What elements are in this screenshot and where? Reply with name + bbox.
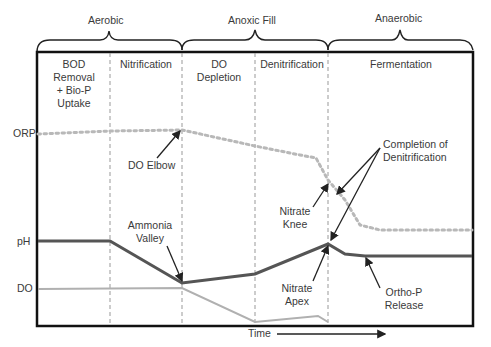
axis-label-orp: ORP	[13, 127, 36, 139]
ph-line	[38, 241, 472, 283]
phase-aerobic: Aerobic	[88, 14, 124, 26]
phase-anaerobic: Anaerobic	[375, 12, 422, 24]
annotation-completion-of-denitrification: Completion of Denitrification	[383, 138, 448, 164]
annotation-arrows	[157, 131, 385, 334]
annotation-ortho-p-release: Ortho-P Release	[382, 286, 426, 312]
annotation-nitrate-apex: Nitrate Apex	[277, 282, 317, 308]
brace-aerobic	[37, 31, 182, 52]
brace-anaerobic	[328, 30, 473, 50]
axis-label-ph: pH	[17, 235, 30, 247]
stage-bod-removal: BOD Removal + Bio-P Uptake	[40, 58, 108, 110]
stage-do-depletion: DO Depletion	[184, 58, 254, 84]
phase-anoxic-fill: Anoxic Fill	[228, 14, 276, 26]
stage-fermentation: Fermentation	[330, 58, 472, 71]
annotation-nitrate-knee: Nitrate Knee	[275, 205, 315, 231]
annotation-ammonia-valley: Ammonia Valley	[124, 219, 176, 245]
stage-nitrification: Nitrification	[112, 58, 180, 71]
axis-label-time: Time	[248, 327, 271, 339]
stage-denitrification: Denitrification	[256, 58, 328, 71]
brace-anoxic	[182, 30, 328, 50]
annotation-do-elbow: DO Elbow	[128, 159, 175, 172]
axis-label-do: DO	[17, 282, 33, 294]
